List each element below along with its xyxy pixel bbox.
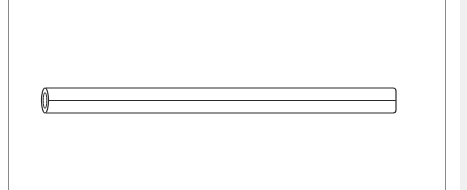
tube-icon bbox=[42, 88, 397, 113]
tube-drawing bbox=[0, 0, 467, 190]
